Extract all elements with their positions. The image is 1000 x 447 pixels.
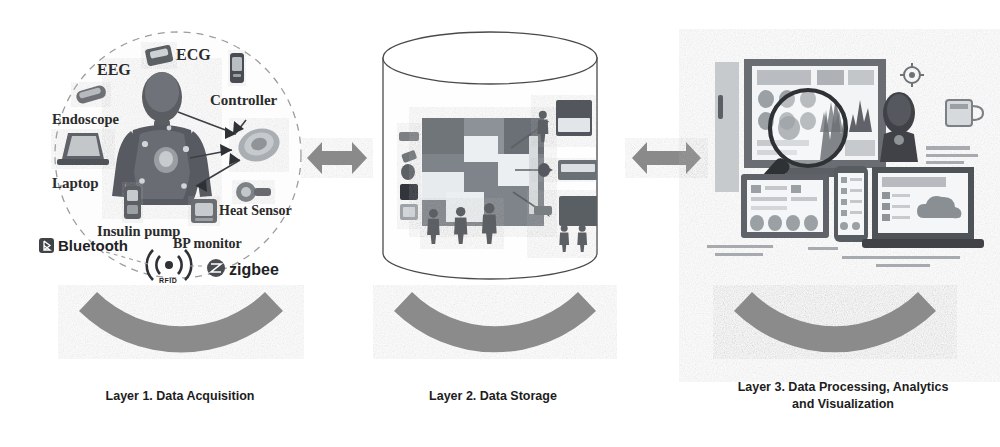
label-eeg: EEG [97, 61, 131, 78]
architecture-diagram: EEG ECG Controller Endoscope Laptop Heat… [0, 0, 1000, 447]
analytics-matrix [422, 118, 544, 226]
label-laptop: Laptop [52, 175, 99, 191]
caption-layer3-line1: Layer 3. Data Processing, Analytics [738, 380, 949, 394]
ecg-device-icon [230, 53, 244, 83]
phone-device [834, 166, 868, 242]
database-cylinder-top [383, 32, 597, 84]
caption-layer2: Layer 2. Data Storage [429, 389, 557, 403]
zigbee-icon [207, 259, 225, 277]
label-bp-monitor: BP monitor [173, 236, 242, 251]
label-zigbee: zigbee [229, 261, 279, 278]
bluetooth-icon [39, 238, 54, 253]
caption-layer1: Layer 1. Data Acquisition [106, 389, 255, 403]
laptop-device [862, 167, 984, 248]
label-rfid: RFID [159, 277, 177, 284]
tablet-device [741, 174, 829, 238]
insulin-pump-device-icon [124, 186, 141, 219]
side-panel-accent [718, 95, 723, 119]
label-ecg: ECG [176, 46, 211, 63]
label-controller: Controller [210, 92, 278, 108]
label-heat-sensor: Heat Sensor [219, 203, 292, 218]
caption-layer3-line2: and Visualization [792, 397, 894, 411]
label-bluetooth: Bluetooth [58, 237, 128, 254]
label-endoscope: Endoscope [52, 111, 119, 127]
side-panel-bg [715, 62, 739, 192]
bp-monitor-device-icon [191, 199, 217, 223]
